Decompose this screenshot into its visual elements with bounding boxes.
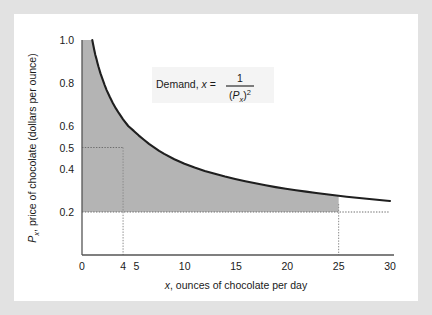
x-tick-label: 15	[230, 260, 242, 272]
denominator-variable: P	[233, 89, 240, 101]
demand-equation-numerator: 1	[237, 72, 243, 84]
demand-curve-chart: 1.0 0.8 0.6 0.5 0.4 0.2 0 4 5 10 15 20 2…	[14, 14, 418, 301]
demand-label-text: Demand,	[156, 78, 199, 90]
y-axis-tick-labels: 1.0 0.8 0.6 0.5 0.4 0.2	[59, 34, 74, 218]
y-tick-label: 0.2	[59, 206, 74, 218]
x-tick-label: 4	[120, 260, 126, 272]
y-axis-title-var: P	[26, 236, 38, 243]
demand-equation-variable: x	[201, 78, 208, 90]
x-tick-label: 5	[134, 260, 140, 272]
figure-outer-frame: 1.0 0.8 0.6 0.5 0.4 0.2 0 4 5 10 15 20 2…	[0, 0, 432, 315]
y-tick-label: 0.6	[59, 120, 74, 132]
x-axis-tick-labels: 0 4 5 10 15 20 25 30	[79, 260, 396, 272]
x-axis-title-rest: , ounces of chocolate per day	[170, 279, 308, 291]
x-axis-title: x, ounces of chocolate per day	[164, 279, 308, 291]
figure-card: 1.0 0.8 0.6 0.5 0.4 0.2 0 4 5 10 15 20 2…	[14, 14, 418, 301]
x-tick-label: 20	[281, 260, 293, 272]
x-tick-label: 10	[179, 260, 191, 272]
x-tick-label: 0	[79, 260, 85, 272]
denominator-exponent: 2	[247, 88, 251, 97]
y-axis-title: Px, price of chocolate (dollars per ounc…	[26, 53, 41, 242]
y-tick-label: 0.4	[59, 163, 74, 175]
y-axis-title-rest: , price of chocolate (dollars per ounce)	[26, 53, 38, 232]
y-tick-label: 0.5	[59, 142, 74, 154]
demand-equation-annotation: Demand,x= 1 (Px)2	[152, 67, 274, 104]
y-tick-label: 1.0	[59, 34, 74, 46]
x-tick-label: 25	[333, 260, 345, 272]
demand-equation-equals: =	[210, 78, 216, 90]
y-tick-label: 0.8	[59, 77, 74, 89]
x-tick-label: 30	[384, 260, 396, 272]
